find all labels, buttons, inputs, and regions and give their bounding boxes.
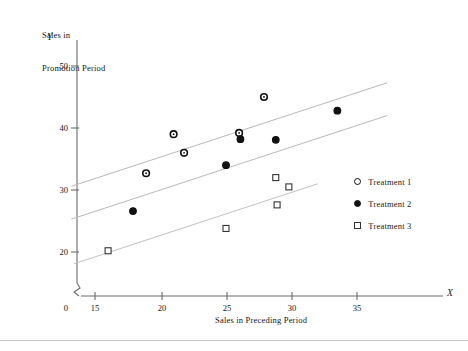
legend-label-treatment-1: Treatment 1: [368, 177, 411, 187]
legend-item-treatment-3: Treatment 3: [352, 220, 412, 242]
legend-item-treatment-2: Treatment 2: [352, 198, 412, 220]
data-point-filled-circle: [334, 107, 341, 114]
legend-item-treatment-1: Treatment 1: [352, 176, 412, 198]
legend-label-treatment-3: Treatment 3: [368, 221, 411, 231]
filled-circle-icon: [352, 199, 363, 209]
open-circle-icon: [352, 177, 363, 187]
data-point-filled-circle: [223, 162, 230, 169]
legend: Treatment 1 Treatment 2 Treatment 3: [352, 176, 412, 242]
regression-line: [71, 83, 387, 187]
axis-break-icon: [74, 283, 80, 296]
open-square-icon: [352, 221, 363, 231]
data-point-open-square: [105, 248, 111, 254]
data-point-center-dot: [263, 96, 265, 98]
page-rule: [0, 340, 468, 341]
data-point-open-square: [223, 225, 229, 231]
data-point-center-dot: [145, 172, 147, 174]
legend-label-treatment-2: Treatment 2: [368, 199, 411, 209]
data-point-center-dot: [173, 133, 175, 135]
data-point-open-square: [286, 184, 292, 190]
data-point-open-square: [273, 175, 279, 181]
data-point-center-dot: [238, 132, 240, 134]
scatter-plot-figure: Sales in Promotion Period Y Sales in Pre…: [0, 0, 468, 351]
data-point-filled-circle: [237, 136, 244, 143]
regression-line: [71, 116, 387, 220]
data-point-markers: [105, 94, 341, 254]
data-point-open-square: [274, 202, 280, 208]
data-point-filled-circle: [272, 136, 279, 143]
data-point-center-dot: [183, 152, 185, 154]
data-point-filled-circle: [130, 208, 137, 215]
